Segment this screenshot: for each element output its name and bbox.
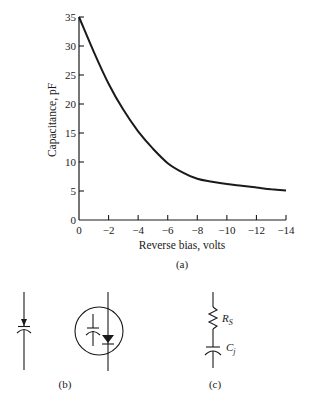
y-tick-label: 10 <box>65 156 77 168</box>
x-tick-label: −4 <box>132 224 144 236</box>
panel-a-caption: (a) <box>176 258 189 271</box>
capacitance-curve <box>79 17 286 190</box>
panel-b-caption: (b) <box>59 378 72 391</box>
varactor-symbol-circle <box>75 292 123 371</box>
x-tick-label: −12 <box>248 224 265 236</box>
y-tick-label: 5 <box>71 185 77 197</box>
figure-canvas: 051015202530350−2−4−6−8−10−12−14 Reverse… <box>0 0 309 406</box>
varactor-symbol-simple <box>17 292 31 370</box>
x-tick-label: −14 <box>277 224 295 236</box>
equivalent-circuit <box>205 292 221 368</box>
y-tick-label: 25 <box>65 69 77 81</box>
y-tick-label: 15 <box>65 127 77 139</box>
x-tick-label: −10 <box>218 224 236 236</box>
x-tick-label: −2 <box>103 224 115 236</box>
y-tick-label: 20 <box>65 98 77 110</box>
x-tick-label: −6 <box>162 224 174 236</box>
junction-capacitance-label: Cj <box>226 341 236 356</box>
y-axis-title: Capacitance, pF <box>46 83 59 157</box>
y-tick-label: 35 <box>65 11 77 23</box>
x-axis-title: Reverse bias, volts <box>139 239 226 252</box>
x-tick-label: 0 <box>76 224 82 236</box>
x-tick-label: −8 <box>191 224 203 236</box>
y-tick-label: 30 <box>65 40 77 52</box>
series-line <box>79 17 286 190</box>
series-resistance-label: RS <box>221 312 233 327</box>
panel-c-caption: (c) <box>209 378 222 391</box>
chart-axes: 051015202530350−2−4−6−8−10−12−14 <box>65 11 295 236</box>
